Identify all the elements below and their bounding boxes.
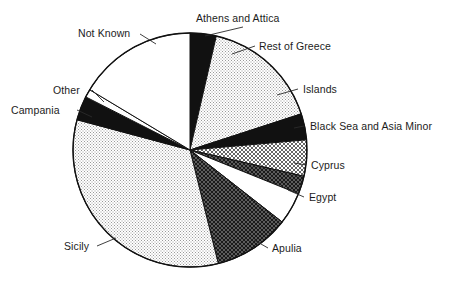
pie-chart-figure: Athens and Attica Rest of Greece Islands… [0,0,455,287]
slice-label-campania: Campania [11,104,60,116]
slice-label-cyprus: Cyprus [311,159,345,171]
callout-sicily [97,238,116,246]
slice-label-black-sea-and-asia-minor: Black Sea and Asia Minor [310,120,432,132]
slice-label-other: Other [53,84,80,96]
slice-label-egypt: Egypt [309,191,336,203]
callout-athens-and-attica [205,27,243,36]
slice-label-apulia: Apulia [272,242,302,254]
slice-label-rest-of-greece: Rest of Greece [259,40,331,52]
pie-slices-group [73,33,307,267]
slice-label-islands: Islands [303,83,337,95]
slice-label-not-known: Not Known [78,27,130,39]
slice-label-athens-and-attica: Athens and Attica [196,12,279,24]
slice-label-sicily: Sicily [64,240,89,252]
